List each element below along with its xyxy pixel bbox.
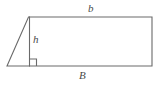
geometry-figure: b h B: [0, 0, 163, 85]
prism-outline: [7, 17, 152, 66]
label-top-edge-b: b: [88, 3, 94, 14]
label-height-h: h: [33, 34, 39, 45]
right-angle-marker: [30, 59, 37, 66]
label-bottom-edge-B: B: [79, 70, 86, 81]
